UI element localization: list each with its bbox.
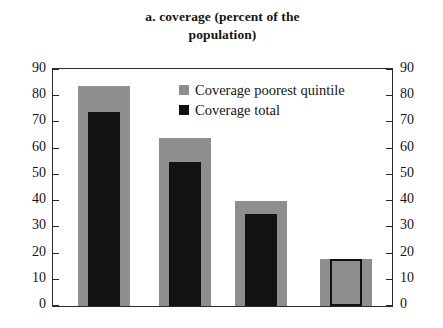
y-axis-tick-right xyxy=(386,148,392,149)
y-axis-label-left: 0 xyxy=(39,297,46,311)
y-axis-tick-left xyxy=(53,69,59,70)
chart-figure: a. coverage (percent of the population) … xyxy=(0,0,443,328)
y-axis-label-right: 0 xyxy=(400,297,407,311)
y-axis-label-right: 80 xyxy=(400,87,414,101)
legend-swatch-icon xyxy=(179,105,189,115)
y-axis-tick-right xyxy=(386,279,392,280)
bar-coverage-total xyxy=(88,112,120,306)
chart-title-line-2: population) xyxy=(95,26,350,44)
y-axis-tick-left xyxy=(53,148,59,149)
y-axis-tick-left xyxy=(53,174,59,175)
y-axis-label-left: 70 xyxy=(32,113,46,127)
y-axis-label-right: 60 xyxy=(400,140,414,154)
y-axis-tick-right xyxy=(386,174,392,175)
legend-label: Coverage total xyxy=(195,102,280,118)
y-axis-label-right: 20 xyxy=(400,245,414,259)
y-axis-tick-right xyxy=(386,121,392,122)
y-axis-label-right: 90 xyxy=(400,61,414,75)
y-axis-label-left: 50 xyxy=(32,166,46,180)
bar-coverage-total xyxy=(169,162,201,306)
plot-area: Coverage poorest quintile Coverage total xyxy=(52,68,393,307)
y-axis-tick-left xyxy=(53,279,59,280)
legend-label: Coverage poorest quintile xyxy=(195,82,345,98)
y-axis-tick-left xyxy=(53,200,59,201)
y-axis-label-left: 20 xyxy=(32,245,46,259)
chart-legend: Coverage poorest quintile Coverage total xyxy=(179,80,345,120)
y-axis-label-left: 30 xyxy=(32,218,46,232)
bar-coverage-total xyxy=(245,214,277,306)
y-axis-tick-left xyxy=(53,226,59,227)
chart-title: a. coverage (percent of the population) xyxy=(95,8,350,44)
y-axis-label-right: 40 xyxy=(400,192,414,206)
y-axis-label-left: 60 xyxy=(32,140,46,154)
y-axis-label-right: 50 xyxy=(400,166,414,180)
y-axis-label-right: 10 xyxy=(400,271,414,285)
y-axis-tick-left xyxy=(53,253,59,254)
y-axis-label-right: 70 xyxy=(400,113,414,127)
chart-title-line-1: a. coverage (percent of the xyxy=(95,8,350,26)
y-axis-tick-right xyxy=(386,69,392,70)
y-axis-label-left: 80 xyxy=(32,87,46,101)
y-axis-label-left: 40 xyxy=(32,192,46,206)
y-axis-tick-right xyxy=(386,200,392,201)
y-axis-tick-left xyxy=(53,95,59,96)
y-axis-tick-right xyxy=(386,226,392,227)
y-axis-label-right: 30 xyxy=(400,218,414,232)
y-axis-label-left: 90 xyxy=(32,61,46,75)
y-axis-tick-right xyxy=(386,95,392,96)
y-axis-tick-left xyxy=(53,305,59,306)
legend-item-coverage-poorest-quintile: Coverage poorest quintile xyxy=(179,80,345,99)
y-axis-tick-right xyxy=(386,253,392,254)
bar-coverage-total xyxy=(330,259,362,306)
legend-swatch-icon xyxy=(179,85,189,95)
legend-item-coverage-total: Coverage total xyxy=(179,100,345,119)
y-axis-tick-right xyxy=(386,305,392,306)
y-axis-tick-left xyxy=(53,121,59,122)
y-axis-label-left: 10 xyxy=(32,271,46,285)
